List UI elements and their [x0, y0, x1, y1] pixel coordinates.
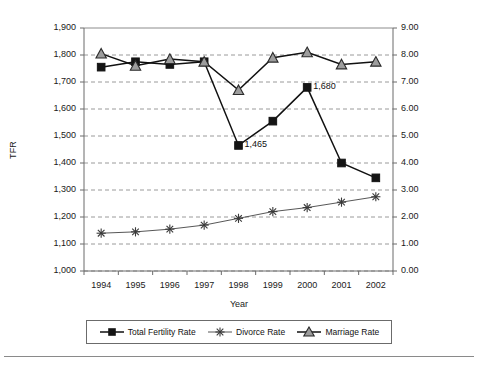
y-tick-label-left: 1,500: [32, 130, 76, 140]
legend-label: Marriage Rate: [325, 327, 379, 337]
data-point-label: 1,465: [245, 139, 268, 149]
y-tick-label-left: 1,600: [32, 103, 76, 113]
legend-entry: Divorce Rate: [207, 326, 285, 338]
y-tick-label-right: 9.00: [401, 22, 445, 32]
footer-rule: [4, 356, 474, 357]
y-tick-label-right: 5.00: [401, 130, 445, 140]
legend-entry: Marriage Rate: [296, 326, 379, 338]
y-tick-label-left: 1,700: [32, 76, 76, 86]
y-tick-label-right: 3.00: [401, 184, 445, 194]
legend: Total Fertility RateDivorce RateMarriage…: [86, 320, 392, 344]
legend-asterisk-icon: [207, 326, 233, 338]
y-tick-label-right: 4.00: [401, 157, 445, 167]
y-tick-label-left: 1,300: [32, 184, 76, 194]
chart-figure: TFR Year 1,9001,8001,7001,6001,5001,4001…: [0, 0, 478, 368]
y-tick-label-right: 0.00: [401, 265, 445, 275]
x-tick-label: 2002: [356, 280, 396, 290]
legend-triangle-icon: [296, 326, 322, 338]
legend-label: Total Fertility Rate: [128, 327, 196, 337]
y-tick-label-left: 1,800: [32, 49, 76, 59]
y-tick-label-right: 6.00: [401, 103, 445, 113]
y-tick-label-right: 2.00: [401, 211, 445, 221]
y-tick-label-right: 7.00: [401, 76, 445, 86]
y-tick-label-right: 8.00: [401, 49, 445, 59]
y-tick-label-left: 1,400: [32, 157, 76, 167]
legend-square-icon: [99, 326, 125, 338]
legend-label: Divorce Rate: [236, 327, 285, 337]
y-tick-label-left: 1,200: [32, 211, 76, 221]
y-tick-label-right: 1.00: [401, 238, 445, 248]
y-tick-label-left: 1,100: [32, 238, 76, 248]
y-tick-label-left: 1,000: [32, 265, 76, 275]
data-point-label: 1,680: [313, 81, 336, 91]
legend-entry: Total Fertility Rate: [99, 326, 196, 338]
y-tick-label-left: 1,900: [32, 22, 76, 32]
